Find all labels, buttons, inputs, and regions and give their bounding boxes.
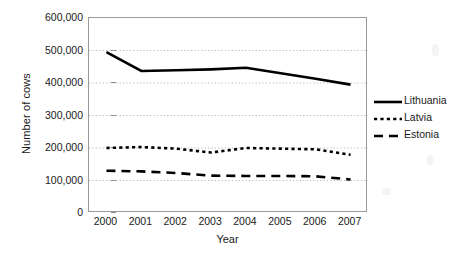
x-axis-title: Year <box>88 233 367 245</box>
y-tick-label: 300,000 <box>28 108 83 122</box>
legend-item-lithuania: Lithuania <box>374 93 469 107</box>
y-tick-label: 600,000 <box>28 10 83 24</box>
x-axis-ticks: 20002001200220032004200520062007 <box>88 215 367 231</box>
y-tick-label: 500,000 <box>28 43 83 57</box>
y-tick-label: 400,000 <box>28 75 83 89</box>
scan-artefact <box>427 155 433 165</box>
legend: LithuaniaLatviaEstonia <box>374 93 469 144</box>
chart-figure: Number of cows 600,000500,000400,000300,… <box>0 0 471 259</box>
legend-item-latvia: Latvia <box>374 110 469 124</box>
series-line-lithuania <box>106 52 350 84</box>
legend-label: Lithuania <box>404 94 447 106</box>
y-tick-label: 200,000 <box>28 140 83 154</box>
x-tick-label: 2007 <box>330 215 370 227</box>
gridlines <box>89 51 368 181</box>
plot-area <box>88 17 367 212</box>
y-tick-label: 0 <box>28 205 83 219</box>
legend-swatch-dotted-icon <box>374 111 402 123</box>
legend-label: Latvia <box>404 111 432 123</box>
series-canvas <box>89 18 368 213</box>
scan-artefact <box>382 188 391 195</box>
legend-swatch-dashed-icon <box>374 128 402 140</box>
y-tick-label: 100,000 <box>28 173 83 187</box>
legend-label: Estonia <box>404 128 439 140</box>
series-line-estonia <box>106 171 350 180</box>
legend-swatch-solid-icon <box>374 94 402 106</box>
scan-artefact <box>432 44 439 56</box>
y-axis-ticks: 600,000500,000400,000300,000200,000100,0… <box>28 0 83 259</box>
legend-item-estonia: Estonia <box>374 127 469 141</box>
